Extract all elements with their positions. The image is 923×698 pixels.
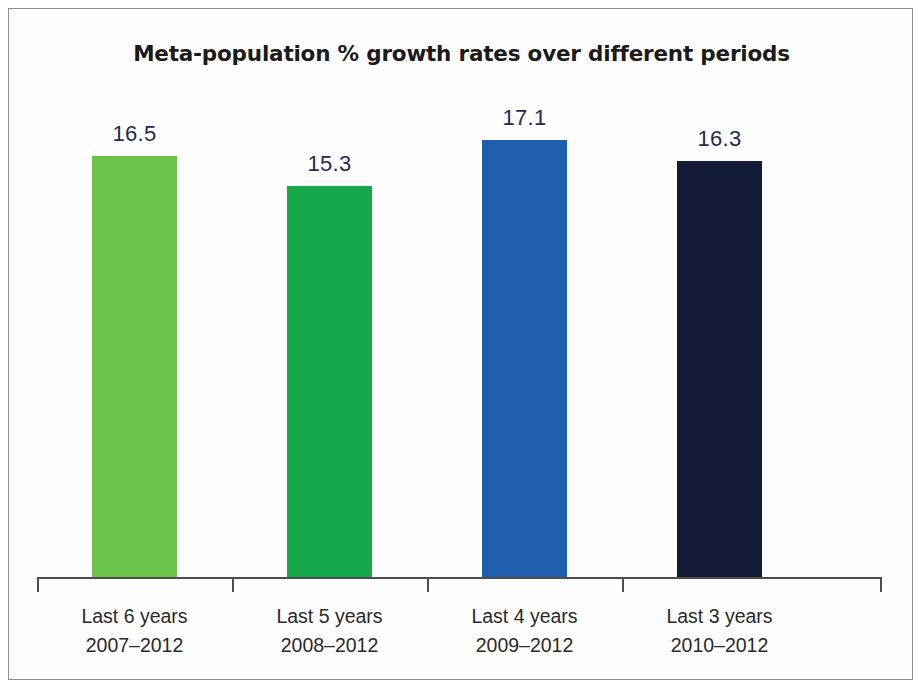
category-line-2: 2010–2012 <box>622 631 817 660</box>
bar-last-6-years[interactable]: 16.5 <box>92 156 177 578</box>
bar-value-label: 15.3 <box>307 151 351 177</box>
bar-last-4-years[interactable]: 17.1 <box>482 140 567 578</box>
bar-rect <box>482 140 567 578</box>
category-line-1: Last 6 years <box>81 605 187 627</box>
x-axis-line <box>37 577 882 579</box>
category-line-2: 2009–2012 <box>427 631 622 660</box>
bar-rect <box>677 161 762 578</box>
x-axis-category-label-2: Last 4 years 2009–2012 <box>427 602 622 660</box>
bar-rect <box>287 186 372 578</box>
bar-rect <box>92 156 177 578</box>
plot-area: 16.5 15.3 17.1 16.3 Last 6 years 2007–20… <box>0 0 923 698</box>
x-axis-tick <box>37 577 39 592</box>
category-line-2: 2007–2012 <box>37 631 232 660</box>
category-line-1: Last 5 years <box>276 605 382 627</box>
category-line-1: Last 3 years <box>666 605 772 627</box>
bar-value-label: 16.5 <box>112 121 156 147</box>
bar-value-label: 16.3 <box>697 126 741 152</box>
bar-last-5-years[interactable]: 15.3 <box>287 186 372 578</box>
x-axis-category-label-0: Last 6 years 2007–2012 <box>37 602 232 660</box>
bar-value-label: 17.1 <box>502 105 546 131</box>
x-axis-category-label-1: Last 5 years 2008–2012 <box>232 602 427 660</box>
category-line-1: Last 4 years <box>471 605 577 627</box>
chart-page: Meta-population % growth rates over diff… <box>0 0 923 698</box>
page-bottom-strip <box>0 681 923 698</box>
x-axis-tick <box>427 577 429 592</box>
category-line-2: 2008–2012 <box>232 631 427 660</box>
bar-last-3-years[interactable]: 16.3 <box>677 161 762 578</box>
x-axis-category-label-3: Last 3 years 2010–2012 <box>622 602 817 660</box>
x-axis-tick <box>880 577 882 592</box>
x-axis-tick <box>622 577 624 592</box>
x-axis-tick <box>232 577 234 592</box>
